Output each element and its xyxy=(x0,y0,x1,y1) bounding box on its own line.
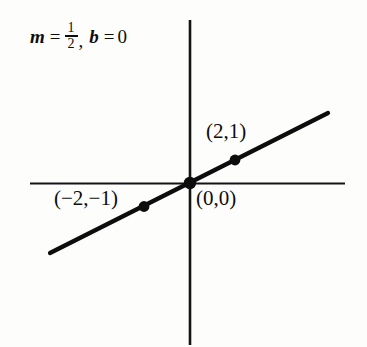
data-point-0-0 xyxy=(184,177,196,189)
equals-sign-1: = xyxy=(47,27,64,46)
slope-variable: m xyxy=(30,27,47,46)
equals-sign-2: = xyxy=(101,27,118,46)
equation-comma: , xyxy=(79,31,90,50)
slope-intercept-equation: m = 1 2 , b = 0 xyxy=(30,21,127,52)
data-point-2-1 xyxy=(230,155,241,166)
slope-fraction: 1 2 xyxy=(65,21,78,52)
intercept-value: 0 xyxy=(117,27,127,46)
intercept-variable: b xyxy=(89,27,101,46)
fraction-denominator: 2 xyxy=(66,37,77,51)
point-label-2-1: (2,1) xyxy=(206,121,246,142)
point-label-0-0: (0,0) xyxy=(196,188,236,209)
line-graph-figure: m = 1 2 , b = 0 (2,1) (0,0) (−2,−1) xyxy=(0,0,367,347)
coordinate-plane-svg xyxy=(0,0,367,347)
fraction-numerator: 1 xyxy=(66,21,77,35)
data-point-neg2-neg1 xyxy=(139,201,150,212)
point-label-neg2-neg1: (−2,−1) xyxy=(54,188,118,209)
